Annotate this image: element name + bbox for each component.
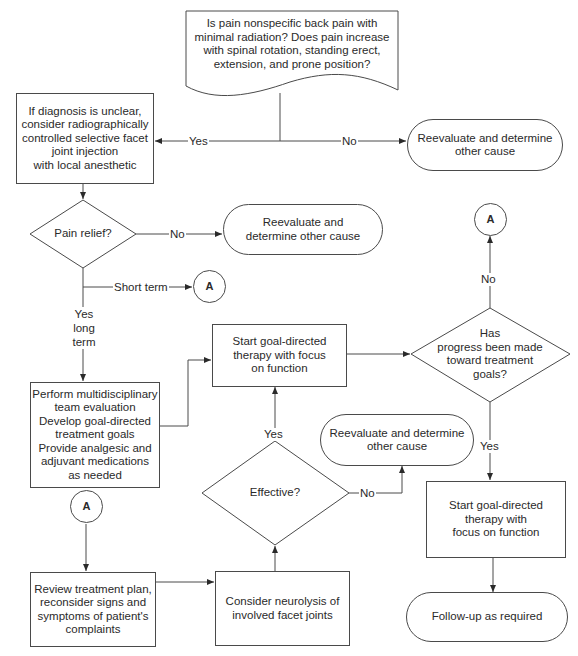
goal-therapy-box-1: Start goal-directed therapy with focus o…: [212, 324, 347, 387]
edge-label-progress-yes: Yes: [479, 440, 500, 453]
start-question-text: Is pain nonspecific back pain with minim…: [192, 14, 392, 74]
reevaluate-terminal-2: Reevaluate and determine other cause: [223, 204, 383, 255]
edge-label-relief-no: No: [169, 228, 186, 241]
reevaluate-terminal-1: Reevaluate and determine other cause: [407, 119, 563, 171]
edge-label-short-term: Short term: [113, 281, 169, 294]
edge-label-start-no: No: [341, 135, 358, 148]
edge-label-effective-no: No: [359, 487, 376, 500]
pain-relief-text: Pain relief?: [40, 226, 126, 242]
connector-a-top: A: [474, 203, 507, 236]
reevaluate-terminal-3: Reevaluate and determine other cause: [320, 414, 474, 466]
connector-a-short-term: A: [193, 270, 226, 303]
effective-text: Effective?: [235, 485, 315, 501]
review-plan-box: Review treatment plan, reconsider signs …: [30, 572, 156, 647]
neurolysis-box: Consider neurolysis of involved facet jo…: [215, 571, 350, 646]
multidisciplinary-box: Perform multidisciplinary team evaluatio…: [30, 382, 160, 488]
edge-label-start-yes: Yes: [188, 135, 209, 148]
progress-question-text: Has progress been made toward treatment …: [430, 326, 550, 382]
edge-label-yes-long-term: Yes long term: [60, 307, 108, 349]
follow-up-terminal: Follow-up as required: [406, 592, 568, 642]
facet-injection-box: If diagnosis is unclear, consider radiog…: [16, 93, 154, 184]
connector-a-bottom: A: [70, 490, 103, 523]
goal-therapy-box-2: Start goal-directed therapy with focus o…: [426, 481, 566, 558]
edge-label-effective-yes: Yes: [263, 428, 284, 441]
edge-label-progress-no: No: [480, 273, 497, 286]
